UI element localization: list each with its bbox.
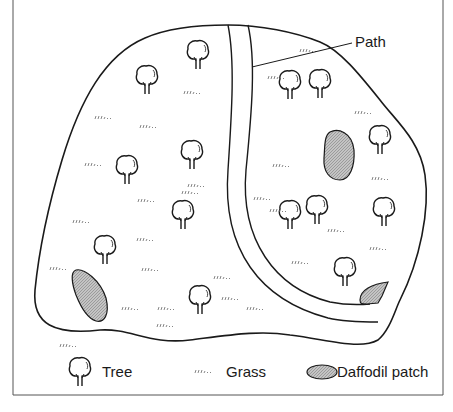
legend-grass-label: Grass xyxy=(226,363,266,380)
path-label: Path xyxy=(355,33,386,50)
tree-icon xyxy=(69,357,90,386)
daffodil-patch-icon xyxy=(307,365,337,379)
legend-daffodil-label: Daffodil patch xyxy=(337,363,428,380)
legend-tree-label: Tree xyxy=(102,363,132,380)
grass-icon xyxy=(195,370,211,373)
park-map-diagram xyxy=(0,0,453,412)
